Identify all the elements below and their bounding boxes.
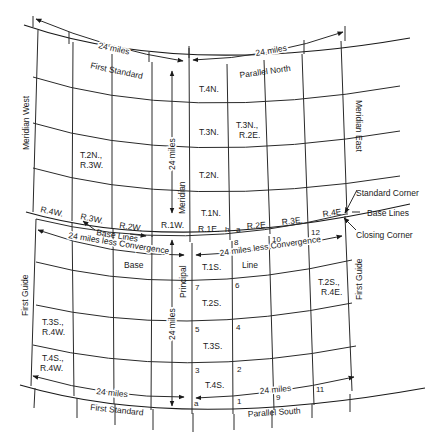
township-t1n: T.1N. — [201, 208, 221, 218]
marker-5: 5 — [195, 325, 200, 334]
range-r4e: R.4E — [322, 206, 342, 219]
marker-3: 3 — [195, 366, 200, 375]
marker-12: 12 — [311, 228, 320, 237]
range-line-north-5 — [227, 64, 230, 240]
principal-label: Principal — [178, 265, 188, 298]
marker-7: 7 — [195, 283, 200, 292]
range-r3w: R.3W. — [80, 211, 105, 226]
township-t2n: T.2N. — [199, 170, 219, 180]
dim-bottom-left: 24 miles — [96, 386, 129, 399]
first-guide-left-line — [31, 219, 36, 386]
marker-11: 11 — [316, 385, 325, 394]
range-line-south-5 — [232, 241, 233, 414]
meridian-east-label: Meridian East — [354, 100, 364, 153]
range-line-north-6 — [264, 60, 270, 234]
range-r1e: R.1E. — [198, 224, 219, 234]
first-standard-bottom-label: First Standard — [90, 402, 144, 418]
township-t4s: T.4S. — [205, 380, 224, 390]
township-t2s-r4e-a: T.2S., — [318, 277, 340, 287]
meridian-east-line — [341, 41, 347, 215]
range-line-north-1 — [72, 42, 73, 221]
marker-1: 1 — [237, 397, 242, 406]
first-guide-right-label: First Guide — [354, 258, 364, 300]
tick-lines-above — [33, 16, 345, 62]
first-standard-parallel-north-line — [24, 25, 410, 55]
dim-top-left: 24 miles — [98, 40, 131, 56]
dim-vertical-upper: 24 miles — [167, 138, 177, 170]
marker-a-top: a — [236, 225, 241, 234]
range-r3e: R.3E. — [281, 215, 303, 227]
township-t4n: T.4N. — [199, 84, 219, 94]
parallel-north-label: Parallel North — [239, 63, 292, 80]
range-line-north-7 — [302, 54, 308, 226]
base-label: Base — [124, 260, 144, 270]
marker-2: 2 — [237, 365, 242, 374]
township-t3s-r4w-b: R.4W. — [42, 327, 65, 337]
range-r1w: R.1W. — [161, 220, 184, 230]
marker-6: 6 — [235, 281, 240, 290]
township-t4s-r4w-b: R.4W. — [40, 363, 63, 373]
township-t2n-r3w-a: T.2N., — [80, 150, 102, 160]
marker-9: 9 — [276, 393, 281, 402]
meridian-west-line — [33, 30, 38, 212]
marker-h: h — [225, 225, 229, 234]
range-line-south-7 — [308, 226, 314, 405]
township-t2n-r3w-b: R.3W. — [80, 160, 103, 170]
township-t3s-r4w-a: T.3S., — [42, 317, 64, 327]
township-t3s: T.3S. — [203, 341, 222, 351]
marker-a-bottom: a — [194, 399, 199, 408]
base-lines-right-label: Base Lines — [367, 208, 409, 218]
township-line-1s-2s — [36, 260, 352, 281]
marker-8: 8 — [234, 238, 239, 247]
township-t2s-r4e-b: R.4E. — [321, 287, 342, 297]
marker-10: 10 — [272, 235, 281, 244]
meridian-label: Meridian — [177, 181, 187, 214]
township-t4s-r4w-a: T.4S., — [42, 353, 64, 363]
township-t3n-r2e-b: R.2E. — [239, 130, 260, 140]
township-line-3s-4s — [33, 345, 356, 363]
township-t2s: T.2S. — [202, 298, 221, 308]
township-survey-diagram: First Standard Parallel North First Stan… — [0, 0, 433, 442]
range-r2e: R.2E. — [246, 220, 268, 231]
range-labels: R.4W. R.3W. R.2W. R.1W. R.1E. R.2E. R.3E… — [40, 204, 343, 234]
line-label: Line — [242, 260, 258, 270]
standard-corner-label: Standard Corner — [356, 188, 419, 198]
range-line-south-2 — [113, 229, 114, 404]
township-line-2s-3s — [36, 303, 352, 321]
first-standard-top-label: First Standard — [90, 60, 145, 81]
first-guide-left-label: First Guide — [20, 274, 30, 316]
marker-4: 4 — [236, 323, 241, 332]
township-t3n: T.3N. — [199, 127, 219, 137]
township-t3n-r2e-a: T.3N., — [236, 120, 258, 130]
principal-meridian-line — [189, 48, 190, 242]
parallel-south-label: Parallel South — [247, 405, 301, 419]
dim-vertical-lower: 24 miles — [167, 308, 177, 340]
township-t1s: T.1S. — [202, 262, 221, 272]
range-line-south-3 — [151, 236, 152, 410]
meridian-west-label: Meridian West — [21, 95, 31, 150]
range-line-south-1 — [72, 222, 74, 396]
dim-top-right: 24 miles — [255, 43, 288, 58]
closing-corner-label: Closing Corner — [356, 230, 413, 240]
